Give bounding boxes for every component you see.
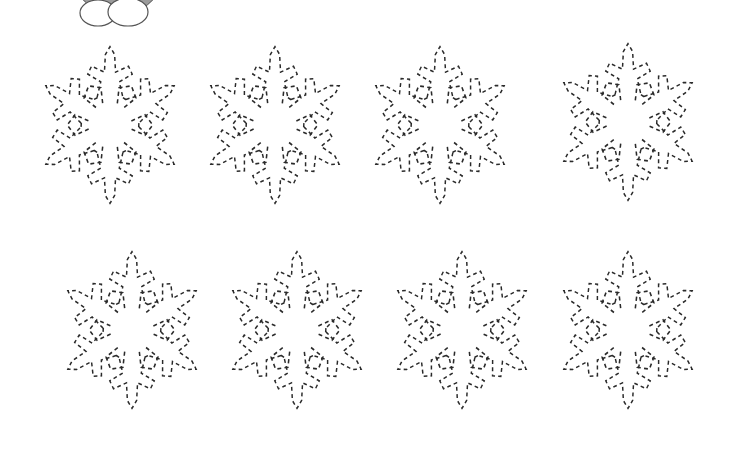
snowflake-outline xyxy=(387,252,537,409)
snowflake-grid xyxy=(35,44,703,409)
mascot-penguin xyxy=(76,0,160,26)
snowflake-outline xyxy=(200,47,350,204)
worksheet-canvas xyxy=(0,0,737,459)
snowflake-outline xyxy=(553,44,703,201)
snowflake-outline xyxy=(365,47,515,204)
mascot-right-foot xyxy=(108,0,148,26)
snowflake-outline xyxy=(553,252,703,409)
snowflake-outline xyxy=(222,252,372,409)
snowflake-outline xyxy=(35,47,185,204)
snowflake-outline xyxy=(57,252,207,409)
